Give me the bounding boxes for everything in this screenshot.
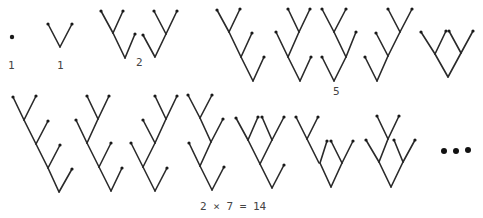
tree-edge <box>200 142 211 166</box>
leaf-node-icon <box>320 7 323 10</box>
leaf-node-icon <box>386 7 389 10</box>
tree-4-leaves-4 <box>363 7 413 81</box>
leaf-node-icon <box>120 166 123 169</box>
tree-drawings <box>0 0 483 218</box>
tree-edge <box>217 10 229 32</box>
tree-edge <box>377 116 388 139</box>
leaf-node-icon <box>256 115 259 118</box>
tree-edge <box>260 164 272 188</box>
tree-edge <box>248 140 260 164</box>
tree-edge <box>143 143 155 167</box>
leaf-node-icon <box>85 94 88 97</box>
tree-edge <box>394 140 403 162</box>
tree-4-leaves-3 <box>320 7 357 81</box>
tree-edge <box>87 96 98 119</box>
tree-edge <box>24 96 36 120</box>
tree-5-leaves-4 <box>186 93 225 190</box>
tree-edge <box>48 168 59 192</box>
tree-edge <box>24 120 36 144</box>
tree-edge <box>13 97 24 120</box>
leaf-node-icon <box>165 166 168 169</box>
tree-edge <box>346 32 356 57</box>
tree-4-leaves-2 <box>274 7 312 81</box>
leaf-node-icon <box>109 141 112 144</box>
tree-edge <box>300 57 311 81</box>
leaf-node-icon <box>374 31 377 34</box>
tree-5-leaves-5 <box>234 115 285 188</box>
leaf-node-icon <box>471 29 474 32</box>
leaf-node-icon <box>129 141 132 144</box>
leaf-node-icon <box>141 118 144 121</box>
tree-5-leaves-2 <box>74 94 123 191</box>
tree-edge <box>131 143 143 167</box>
tree-edge <box>143 35 155 57</box>
leaf-node-icon <box>210 93 213 96</box>
leaf-node-icon <box>74 118 77 121</box>
leaf-node-icon <box>187 141 190 144</box>
tree-edge <box>334 32 346 57</box>
tree-edge <box>320 163 331 187</box>
tree-edge <box>376 33 388 56</box>
tree-edge <box>449 31 461 53</box>
tree-5-leaves-1 <box>11 94 73 192</box>
tree-edge <box>200 95 212 118</box>
tree-edge <box>76 120 87 143</box>
leaf-node-icon <box>238 7 241 10</box>
leaf-node-icon <box>221 117 224 120</box>
leaf-node-icon <box>320 55 323 58</box>
tree-edge <box>98 96 109 119</box>
leaf-node-icon <box>282 115 285 118</box>
leaf-node-icon <box>309 55 312 58</box>
tree-3-leaves-2 <box>141 9 178 57</box>
tree-edge <box>166 11 177 34</box>
tree-edge <box>154 11 166 34</box>
ellipsis-icon <box>441 147 473 155</box>
tree-edge <box>435 54 448 77</box>
tree-5-leaves-6 <box>294 115 354 187</box>
tree-edge <box>143 167 155 191</box>
tree-edge <box>388 116 399 139</box>
tree-edge <box>229 32 241 57</box>
leaf-node-icon <box>46 119 49 122</box>
tree-edge <box>276 32 288 57</box>
leaf-node-icon <box>308 7 311 10</box>
tree-edge <box>272 165 284 188</box>
tree-enumeration-diagram: 1 1 2 5 2 × 7 = 14 <box>0 0 483 218</box>
tree-edge <box>248 117 258 140</box>
leaf-node-icon <box>316 115 319 118</box>
tree-edge <box>113 33 125 58</box>
tree-edge <box>331 163 342 187</box>
tree-edge <box>342 141 353 163</box>
leaf-node-icon <box>34 94 37 97</box>
tree-edge <box>322 9 334 32</box>
tree-edge <box>299 9 310 32</box>
tree-edge <box>366 140 379 162</box>
leaf-node-icon <box>46 22 49 25</box>
tree-edge <box>59 169 72 192</box>
tree-edge <box>307 117 318 139</box>
tree-edge <box>241 57 253 81</box>
tree-edge <box>60 24 72 47</box>
leaf-node-icon <box>282 163 285 166</box>
leaf-node-icon <box>186 93 189 96</box>
tree-edge <box>211 119 223 142</box>
leaf-node-icon <box>262 55 265 58</box>
leaf-node-icon <box>153 94 156 97</box>
tree-edge <box>200 166 212 190</box>
leaf-node-icon <box>175 94 178 97</box>
leaf-node-icon <box>392 138 395 141</box>
tree-5-leaves-7 <box>364 114 416 187</box>
leaf-node-icon <box>294 115 297 118</box>
leaf-node-icon <box>375 114 378 117</box>
leaf-node-icon <box>363 55 366 58</box>
tree-edge <box>241 33 252 57</box>
tree-edge <box>288 9 299 32</box>
tree-edge <box>435 31 446 54</box>
tree-edge <box>155 168 167 191</box>
leaf-node-icon <box>344 7 347 10</box>
tree-edge <box>155 119 166 143</box>
tree-4-leaves-1 <box>215 7 265 81</box>
leaf-node-icon <box>447 29 450 32</box>
tree-edge <box>334 9 346 32</box>
tree-5-leaves-3 <box>129 94 178 191</box>
